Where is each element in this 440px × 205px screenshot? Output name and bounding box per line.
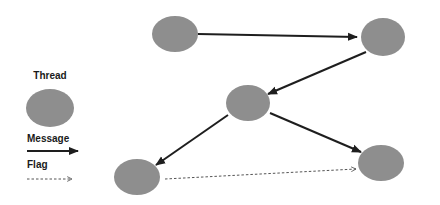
thread-node-c	[226, 85, 270, 121]
edge-flag-d-e	[165, 169, 356, 179]
thread-node-a	[152, 16, 198, 52]
legend-message-label: Message	[27, 133, 70, 144]
legend-thread-icon	[26, 89, 74, 127]
thread-node-d	[114, 159, 160, 195]
legend-flag-label: Flag	[27, 159, 48, 170]
edge-message-b-c	[268, 52, 366, 94]
legend-thread-label: Thread	[33, 70, 66, 81]
legend: Thread Message Flag	[26, 70, 78, 179]
edge-message-c-e	[270, 113, 361, 152]
thread-node-b	[361, 18, 405, 56]
edge-message-c-d	[156, 115, 228, 165]
nodes	[114, 16, 405, 195]
thread-node-e	[358, 145, 404, 181]
thread-diagram: Thread Message Flag	[0, 0, 440, 205]
edge-message-a-b	[198, 34, 357, 37]
